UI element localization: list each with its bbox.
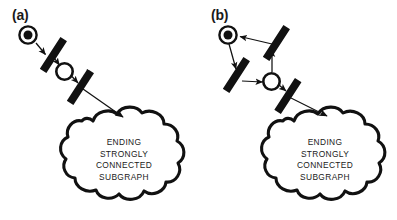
transition-left-b (223, 57, 250, 93)
arc-middle-place-to-transition-2 (72, 76, 79, 83)
arc-transition-1-to-middle-place (54, 57, 60, 65)
panel-a: (a) (0, 0, 198, 220)
initial-place-b (219, 26, 236, 43)
token-dot-a (24, 31, 33, 40)
initial-place-a (19, 26, 36, 43)
arc-transition-top-to-initial-place (240, 37, 272, 45)
panel-b-graphics (199, 0, 397, 220)
arc-initial-place-to-transition-1 (36, 43, 46, 55)
ending-subgraph-cloud-b (262, 107, 385, 199)
middle-place-a (56, 63, 72, 79)
panel-b: (b) (199, 0, 397, 220)
petri-net-figure: (a) (0, 0, 397, 220)
ending-subgraph-cloud-a (61, 107, 184, 199)
arc-initial-place-to-transition-left (229, 44, 236, 69)
middle-place-b (263, 73, 279, 89)
token-dot-b (224, 31, 233, 40)
panel-a-graphics (0, 0, 198, 220)
arc-middle-place-to-transition-exit (279, 85, 286, 91)
arc-transition-left-to-middle-place (242, 81, 263, 82)
